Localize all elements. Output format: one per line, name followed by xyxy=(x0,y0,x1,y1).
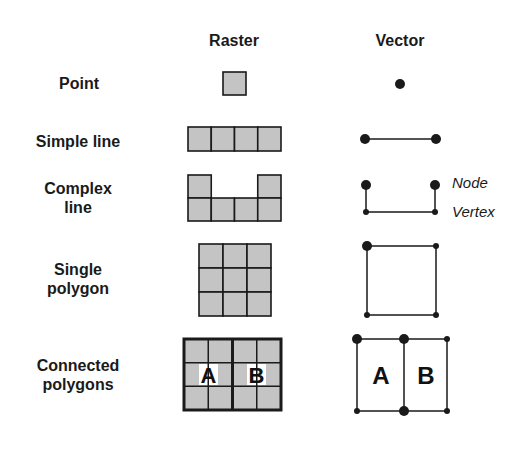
raster-vector-diagram: A B A B xyxy=(0,0,524,450)
vertex-icon xyxy=(354,408,360,414)
node-icon xyxy=(431,134,441,144)
vertex-icon xyxy=(433,312,439,318)
node-icon xyxy=(352,334,362,344)
raster-simple-line xyxy=(188,127,281,151)
raster-point xyxy=(223,72,246,95)
node-icon xyxy=(399,406,409,416)
node-icon xyxy=(361,180,371,190)
node-icon xyxy=(362,241,372,251)
vector-label-b: B xyxy=(417,362,434,389)
raster-label-a: A xyxy=(201,363,217,388)
raster-label-b: B xyxy=(249,363,265,388)
vertex-icon xyxy=(432,209,438,215)
node-icon xyxy=(395,79,405,89)
vector-connected-polygons: A B xyxy=(352,334,450,416)
vertex-icon xyxy=(444,336,450,342)
vector-simple-line xyxy=(360,134,441,144)
vertex-icon xyxy=(444,408,450,414)
raster-connected-polygons: A B xyxy=(184,339,281,410)
vector-complex-line xyxy=(361,180,440,215)
vector-point xyxy=(395,79,405,89)
vector-single-polygon xyxy=(362,241,439,318)
raster-complex-line xyxy=(188,175,281,221)
vertex-icon xyxy=(433,243,439,249)
vertex-icon xyxy=(364,312,370,318)
vector-label-a: A xyxy=(372,362,389,389)
node-icon xyxy=(360,134,370,144)
node-icon xyxy=(430,180,440,190)
raster-single-polygon xyxy=(199,244,271,316)
node-icon xyxy=(399,334,409,344)
vertex-icon xyxy=(363,209,369,215)
